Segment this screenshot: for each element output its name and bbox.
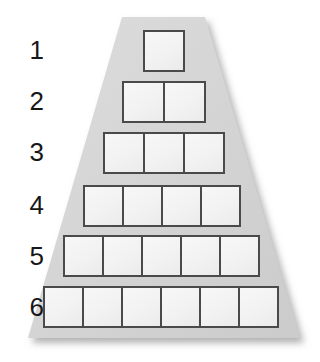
figure-canvas: 1 2 3 4 5 6 <box>0 0 320 362</box>
pyramid-cell[interactable] <box>43 286 84 328</box>
row-label-1: 1 <box>14 37 44 63</box>
pyramid-cell[interactable] <box>143 132 185 174</box>
pyramid-cell[interactable] <box>219 235 260 277</box>
pyramid-cell[interactable] <box>83 185 124 227</box>
pyramid-row-5 <box>63 235 260 277</box>
pyramid-cell[interactable] <box>163 81 206 123</box>
pyramid-cell[interactable] <box>122 185 163 227</box>
pyramid-row-6 <box>43 286 279 328</box>
pyramid-cell[interactable] <box>183 132 225 174</box>
pyramid-cell[interactable] <box>160 286 201 328</box>
pyramid-cell[interactable] <box>199 286 240 328</box>
pyramid-cell[interactable] <box>180 235 221 277</box>
pyramid-cell[interactable] <box>121 286 162 328</box>
pyramid-cell[interactable] <box>143 30 185 72</box>
row-label-6: 6 <box>14 294 44 320</box>
pyramid-cell[interactable] <box>122 81 165 123</box>
pyramid-row-3 <box>103 132 225 174</box>
row-label-4: 4 <box>14 192 44 218</box>
pyramid-row-4 <box>83 185 241 227</box>
pyramid-cell[interactable] <box>238 286 279 328</box>
row-label-5: 5 <box>14 243 44 269</box>
pyramid-cell[interactable] <box>102 235 143 277</box>
pyramid-row-1 <box>143 30 185 72</box>
pyramid-cell[interactable] <box>82 286 123 328</box>
pyramid-cell[interactable] <box>200 185 241 227</box>
pyramid-cell[interactable] <box>63 235 104 277</box>
pyramid-cell[interactable] <box>141 235 182 277</box>
pyramid-cell[interactable] <box>161 185 202 227</box>
pyramid-cell[interactable] <box>103 132 145 174</box>
row-label-3: 3 <box>14 139 44 165</box>
pyramid-row-2 <box>122 81 206 123</box>
row-label-2: 2 <box>14 88 44 114</box>
